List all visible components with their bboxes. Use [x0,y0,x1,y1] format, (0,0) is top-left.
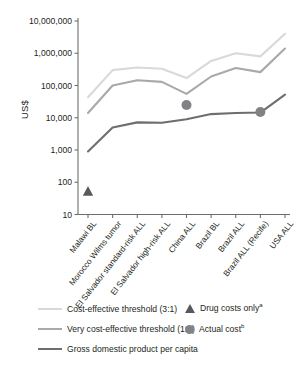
legend-label-drug-costs-only: Drug costs onlya [200,303,263,313]
legend-label-gdp: Gross domestic product per capita [67,344,198,354]
legend-item-cost-effective-3-1: Cost-effective threshold (3:1) [38,304,177,314]
legend-label-actual-cost: Actual costb [199,324,244,334]
legend-item-gdp-per-capita: Gross domestic product per capita [38,344,198,354]
legend-item-actual-cost: Actual costb [185,324,244,334]
footnote-marker-a: a [259,302,262,308]
circle-marker-icon [185,325,194,334]
footnote-marker-b: b [241,323,244,329]
legend-item-very-cost-effective-1-1: Very cost-effective threshold (1:1) [38,324,195,334]
legend-line-swatch-cost-effective [38,308,62,310]
triangle-marker-icon [185,304,195,313]
legend-item-drug-costs-only: Drug costs onlya [185,303,263,313]
legend-line-swatch-very-cost-effective [38,328,62,330]
legend-label-very-cost-effective: Very cost-effective threshold (1:1) [67,324,195,334]
chart-legend: Cost-effective threshold (3:1) Very cost… [0,300,304,362]
chart-container: US$ 10,000,0001,000,000100,00010,0001,00… [0,0,304,377]
legend-line-swatch-gdp [38,348,62,350]
legend-label-cost-effective: Cost-effective threshold (3:1) [67,304,177,314]
